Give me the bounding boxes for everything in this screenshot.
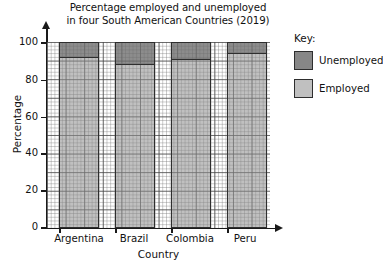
y-tick-label-20: 20 xyxy=(25,184,38,195)
chart-title-line-1: Percentage employed and unemployed xyxy=(52,2,284,15)
legend-item-employed[interactable]: Employed xyxy=(294,79,383,98)
legend-label-employed: Employed xyxy=(319,83,370,94)
bar-brazil[interactable] xyxy=(115,42,155,228)
bar-peru-employed xyxy=(228,52,266,227)
bar-brazil-unemployed xyxy=(116,43,154,65)
employed-swatch-icon xyxy=(294,79,313,98)
bar-argentina-employed xyxy=(60,56,98,227)
x-axis-arrowhead xyxy=(275,224,283,232)
unemployed-swatch-icon xyxy=(294,51,313,70)
bar-peru-unemployed xyxy=(228,43,266,54)
bar-colombia[interactable] xyxy=(171,42,211,228)
bar-series-group xyxy=(47,42,270,228)
x-tick-label-peru: Peru xyxy=(212,233,278,244)
y-tick-label-100: 100 xyxy=(19,36,38,47)
bar-peru[interactable] xyxy=(227,42,267,228)
bar-argentina-unemployed xyxy=(60,43,98,58)
legend-item-unemployed[interactable]: Unemployed xyxy=(294,51,383,70)
chart-title-line-2: in four South American Countries (2019) xyxy=(52,15,284,28)
y-tick-label-40: 40 xyxy=(25,147,38,158)
legend-title: Key: xyxy=(294,32,383,44)
chart-title: Percentage employed and unemployed in fo… xyxy=(52,2,284,27)
y-tick-label-80: 80 xyxy=(25,74,38,85)
chart-legend: Key: Unemployed Employed xyxy=(294,32,383,107)
bar-argentina[interactable] xyxy=(59,42,99,228)
bar-colombia-employed xyxy=(172,58,210,227)
y-axis-arrowhead xyxy=(42,21,50,29)
y-tick-label-0: 0 xyxy=(32,221,38,232)
plot-area xyxy=(47,42,270,228)
x-axis-title: Country xyxy=(47,248,270,260)
legend-label-unemployed: Unemployed xyxy=(319,55,383,66)
y-tick-label-60: 60 xyxy=(25,111,38,122)
y-axis-title: Percentage xyxy=(11,79,23,169)
bar-colombia-unemployed xyxy=(172,43,210,60)
bar-brazil-employed xyxy=(116,63,154,227)
